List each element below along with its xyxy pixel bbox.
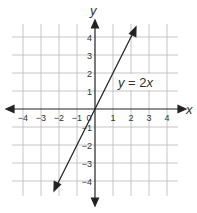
x-tick-label: −1 [72, 113, 82, 123]
x-tick-label: −4 [18, 113, 28, 123]
y-tick-labels: 4 3 2 1 −1 −2 −3 −4 [82, 33, 92, 187]
x-tick-label: 1 [110, 113, 115, 123]
x-tick-label: 3 [146, 113, 151, 123]
y-tick-label: −4 [82, 177, 92, 187]
x-tick-label: 4 [164, 113, 169, 123]
x-tick-label: 2 [128, 113, 133, 123]
equation-label: y = 2x [117, 75, 154, 90]
y-tick-label: 3 [87, 51, 92, 61]
y-tick-label: −1 [82, 123, 92, 133]
y-tick-label: −3 [82, 159, 92, 169]
y-tick-label: −2 [82, 141, 92, 151]
x-tick-label: −2 [54, 113, 64, 123]
x-tick-label: −3 [36, 113, 46, 123]
x-axis-label: x [185, 102, 193, 117]
y-tick-label: 2 [87, 69, 92, 79]
x-tick-labels: −4 −3 −2 −1 0 1 2 3 4 [18, 113, 170, 123]
origin-label: 0 [86, 113, 91, 123]
coordinate-plane: y = 2x x y −4 −3 −2 −1 0 1 2 3 4 4 3 2 1… [0, 0, 197, 213]
y-tick-label: 1 [87, 87, 92, 97]
y-axis-label: y [89, 3, 98, 18]
y-tick-label: 4 [87, 33, 92, 43]
